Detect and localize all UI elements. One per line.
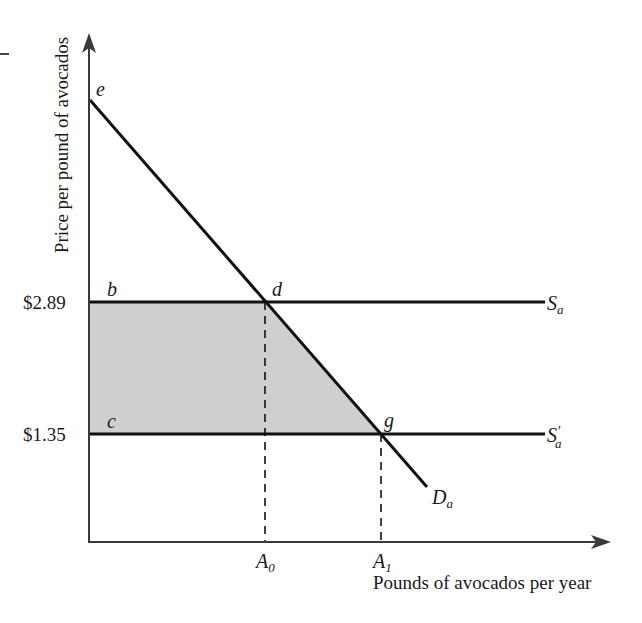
curve-label-da: Da	[432, 487, 453, 510]
curve-label-sa-prime: S′a	[547, 425, 562, 445]
price-tick-high: $2.89	[23, 293, 66, 312]
point-label-b: b	[107, 279, 117, 299]
qty-tick-a0: A0	[256, 551, 275, 574]
curve-label-sa: Sa	[547, 293, 564, 316]
x-axis-label: Pounds of avocados per year	[373, 572, 591, 594]
point-label-c: c	[107, 411, 116, 431]
price-tick-low: $1.35	[23, 425, 66, 444]
y-axis-label: Price per pound of avocados	[51, 37, 73, 253]
shaded-area	[89, 302, 381, 434]
point-label-g: g	[384, 410, 394, 430]
point-label-d: d	[272, 279, 282, 299]
qty-tick-a1: A1	[373, 551, 392, 574]
point-label-e: e	[96, 79, 105, 99]
